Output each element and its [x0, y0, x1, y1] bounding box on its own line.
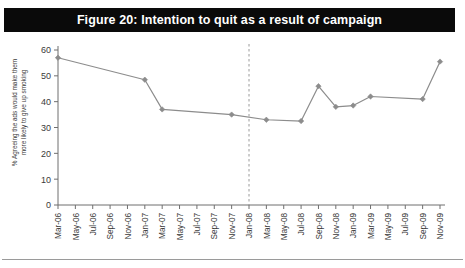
chart-area: % Agreeing the ads would make them more … [0, 34, 465, 249]
x-axis-tick-label: Jul-08 [297, 213, 306, 236]
x-axis-tick-label: Sep-07 [210, 213, 219, 240]
page-title: Figure 20: Intention to quit as a result… [77, 13, 382, 27]
x-axis-tick-label: Sep-08 [315, 213, 324, 240]
footer-divider [2, 259, 463, 260]
x-axis-tick-label: Jan-09 [349, 213, 358, 238]
x-axis-tick-label: May-07 [176, 213, 185, 241]
x-axis-tick-label: Mar-06 [54, 213, 63, 239]
data-point-marker [420, 96, 425, 101]
x-axis-tick-label: May-09 [384, 213, 393, 241]
x-axis-tick-label: Nov-06 [124, 213, 133, 240]
data-point-marker [350, 103, 355, 108]
x-axis-tick-label: May-06 [72, 213, 81, 241]
x-axis-tick-label: Nov-09 [436, 213, 445, 240]
data-point-marker [159, 107, 164, 112]
y-axis-tick-label: 40 [41, 97, 51, 107]
data-point-marker [264, 117, 269, 122]
y-axis-tick-label: 10 [41, 175, 51, 185]
y-axis-tick-label: 0 [46, 200, 51, 210]
figure-container: Figure 20: Intention to quit as a result… [0, 0, 465, 268]
x-axis-tick-label: Mar-09 [367, 213, 376, 239]
data-point-marker [142, 77, 147, 82]
x-axis-tick-label: May-08 [280, 213, 289, 241]
x-axis-tick-label: Nov-07 [228, 213, 237, 240]
x-axis-tick-label: Jan-08 [245, 213, 254, 238]
data-point-marker [55, 55, 60, 60]
data-point-marker [298, 118, 303, 123]
y-axis-tick-label: 20 [41, 149, 51, 159]
x-axis-tick-label: Sep-06 [106, 213, 115, 240]
x-axis-tick-label: Jul-06 [89, 213, 98, 236]
y-axis-tick-label: 30 [41, 123, 51, 133]
x-axis-tick-label: Jul-07 [193, 213, 202, 236]
x-axis-tick-label: Sep-09 [419, 213, 428, 240]
x-axis-tick-label: Mar-08 [263, 213, 272, 239]
x-axis-tick-label: Jan-07 [141, 213, 150, 238]
figure-title-banner: Figure 20: Intention to quit as a result… [4, 8, 455, 32]
data-point-marker [437, 59, 442, 64]
data-point-marker [368, 94, 373, 99]
y-axis-tick-label: 50 [41, 71, 51, 81]
x-axis-tick-label: Jul-09 [401, 213, 410, 236]
x-axis-tick-label: Mar-07 [158, 213, 167, 239]
data-point-marker [229, 112, 234, 117]
line-chart-plot: 0102030405060Mar-06May-06Jul-06Sep-06Nov… [0, 34, 465, 249]
x-axis-tick-label: Nov-08 [332, 213, 341, 240]
y-axis-tick-label: 60 [41, 45, 51, 55]
